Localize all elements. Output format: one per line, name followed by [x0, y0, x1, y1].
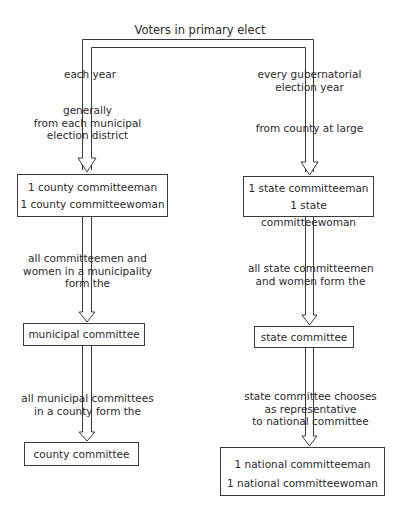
box-line: 1 national committeewoman: [221, 474, 384, 493]
box-line: 1 state committeeman: [244, 180, 373, 197]
label-left-low: all municipal committees in a county for…: [20, 392, 155, 417]
label-line: every gubernatorial: [252, 68, 367, 81]
box-line: 1 state committeewoman: [244, 197, 373, 231]
label-line: from each municipal: [25, 117, 150, 130]
box-state-committee-members: 1 state committeeman 1 state committeewo…: [243, 176, 374, 217]
label-line: election district: [25, 129, 150, 142]
box-line: 1 county committeewoman: [18, 196, 167, 213]
box-national-committee-members: 1 national committeeman 1 national commi…: [220, 447, 385, 496]
label-line: all state committeemen: [248, 262, 373, 275]
label-line: form the: [20, 277, 155, 290]
box-line: 1 national committeeman: [221, 455, 384, 474]
box-county-committee: county committee: [24, 442, 139, 466]
label-line: state committee chooses: [243, 390, 378, 403]
label-right-mid: all state committeemen and women form th…: [248, 262, 373, 287]
diagram-title: Voters in primary elect: [130, 24, 270, 37]
label-right-top: every gubernatorial election year: [252, 68, 367, 93]
label-line: all committeemen and: [20, 252, 155, 265]
label-line: all municipal committees: [20, 392, 155, 405]
label-left-source: generally from each municipal election d…: [25, 104, 150, 142]
box-municipal-committee: municipal committee: [23, 323, 145, 346]
label-right-low: state committee chooses as representativ…: [243, 390, 378, 428]
label-line: to national committee: [243, 415, 378, 428]
label-line: in a county form the: [20, 405, 155, 418]
label-line: generally: [25, 104, 150, 117]
label-line: women in a municipality: [20, 265, 155, 278]
box-line: 1 county committeeman: [18, 179, 167, 196]
box-state-committee: state committee: [254, 326, 354, 348]
label-line: election year: [252, 81, 367, 94]
box-county-committee-members: 1 county committeeman 1 county committee…: [17, 174, 168, 217]
label-each-year: each year: [50, 68, 130, 81]
label-left-mid: all committeemen and women in a municipa…: [20, 252, 155, 290]
label-right-source: from county at large: [252, 122, 367, 135]
label-line: and women form the: [248, 275, 373, 288]
label-line: as representative: [243, 403, 378, 416]
